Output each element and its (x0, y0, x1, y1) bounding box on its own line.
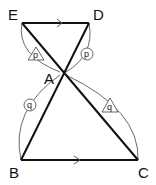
angle-mark-q-circle: q (24, 99, 36, 111)
point-label-b: B (9, 164, 19, 181)
svg-text:q: q (107, 102, 112, 112)
angle-mark-q-triangle: q (102, 98, 118, 112)
similar-triangles-diagram: p p q q E D A B C (0, 0, 156, 185)
svg-text:p: p (84, 49, 89, 59)
svg-text:q: q (27, 100, 32, 110)
angle-mark-p-circle: p (81, 48, 93, 60)
segment-ec (22, 23, 138, 160)
angle-arc-b (19, 75, 60, 160)
point-label-c: C (138, 164, 149, 181)
point-label-a: A (44, 70, 54, 87)
point-label-d: D (93, 6, 104, 23)
svg-text:p: p (33, 50, 38, 60)
point-label-e: E (8, 6, 18, 23)
